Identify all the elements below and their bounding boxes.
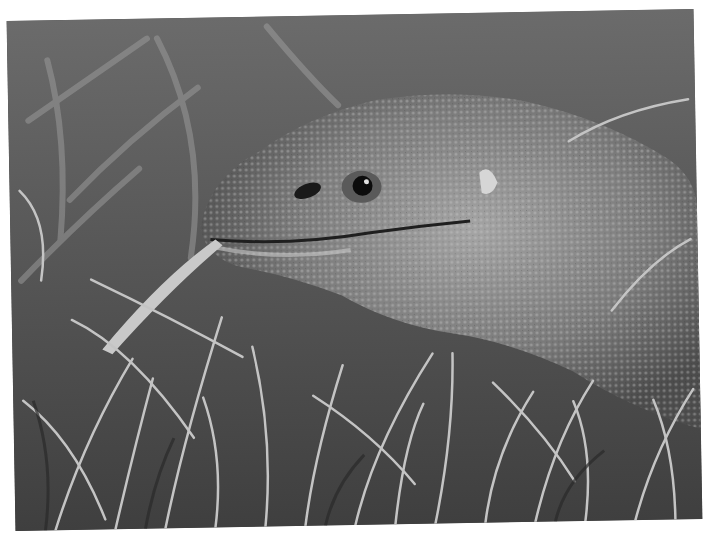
lizard-illustration: [7, 9, 703, 531]
lizard-photo: [7, 9, 703, 531]
